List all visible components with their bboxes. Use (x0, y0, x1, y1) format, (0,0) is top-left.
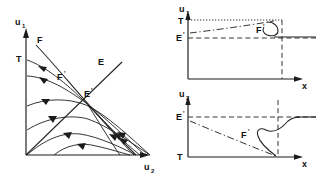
xlabel-subscript: 2 (151, 168, 155, 174)
y-axis (23, 28, 29, 155)
ylabel-text: u (15, 17, 21, 27)
label-u1: u 1 (179, 4, 190, 16)
label-F-prime-mark: ' (263, 23, 265, 30)
label-F-prime-text: F (241, 130, 247, 140)
label-F-prime: F ' (256, 23, 265, 35)
u2-vs-x-panel: u 2 E ' F ' T x (170, 88, 318, 181)
u1-vs-x-panel: u 1 T E ' F ' x (170, 0, 318, 92)
label-F-prime-mark: ' (248, 128, 250, 135)
label-E-prime-text: E (176, 112, 182, 122)
trajectory-arrowhead (41, 99, 50, 105)
label-E-prime: E ' (84, 87, 93, 99)
label-F: F (37, 35, 43, 45)
x-axis (188, 154, 303, 159)
profile-curve (263, 22, 278, 36)
trajectory-arrowhead (48, 116, 57, 123)
figure-container: u 1 u 2 F T F ' E E ' (0, 0, 318, 181)
trajectory (27, 76, 145, 155)
ylabel-text: u (179, 4, 185, 14)
xlabel-x: x (302, 159, 307, 169)
label-F-prime-text: F (57, 72, 63, 82)
ylabel-subscript: 1 (22, 23, 26, 29)
trajectory-arrowhead (39, 77, 48, 84)
xlabel-text: u (144, 162, 150, 172)
profile-curve (257, 117, 300, 156)
label-F-prime: F ' (57, 70, 66, 82)
trajectory (27, 100, 150, 155)
trajectory-arrowhead (63, 132, 72, 139)
x-axis (188, 76, 303, 81)
trajectory-arrowhead (38, 66, 47, 72)
label-u1: u 1 (15, 17, 26, 29)
label-F-prime-mark: ' (64, 70, 66, 77)
label-T: T (178, 16, 184, 26)
label-E-prime-mark: ' (183, 110, 185, 117)
label-E-prime: E ' (176, 31, 185, 43)
label-E-prime: E ' (176, 110, 185, 122)
label-u2: u 2 (179, 89, 190, 101)
trajectory-arrowhead (77, 143, 86, 150)
phase-plane-panel: u 1 u 2 F T F ' E E ' (0, 0, 170, 181)
label-E-prime-text: E (84, 89, 90, 99)
trajectory (88, 105, 134, 155)
ylabel-text: u (179, 89, 185, 99)
rarefaction-curve (190, 121, 276, 156)
label-E-prime-text: E (176, 33, 182, 43)
label-T: T (16, 54, 22, 64)
label-F-prime-text: F (256, 25, 262, 35)
label-u2: u 2 (144, 162, 155, 174)
label-T: T (177, 152, 183, 162)
y-axis (185, 11, 190, 79)
y-axis-arrowhead (23, 28, 29, 38)
separatrix-E-line (26, 62, 122, 155)
label-F-prime: F ' (241, 128, 250, 140)
y-axis (185, 96, 190, 157)
label-E-prime-mark: ' (183, 31, 185, 38)
ylabel-subscript: 1 (186, 10, 190, 16)
label-E: E (98, 57, 104, 67)
ylabel-subscript: 2 (186, 95, 190, 101)
